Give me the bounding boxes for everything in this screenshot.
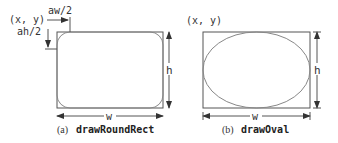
caption-prefix: (b) bbox=[222, 124, 234, 136]
width-label: w bbox=[106, 111, 113, 122]
caption-method: drawOval bbox=[241, 124, 289, 135]
width-label: w bbox=[252, 111, 259, 122]
rounded-rectangle bbox=[57, 32, 163, 108]
caption-prefix: (a) bbox=[57, 124, 68, 136]
origin-label: (x, y) bbox=[186, 15, 222, 26]
panel-draw-round-rect: (x, y) aw/2 ah/2 h w (a) drawRoundRect bbox=[9, 5, 173, 136]
arc-width-label: aw/2 bbox=[48, 5, 72, 16]
height-label: h bbox=[166, 64, 173, 77]
bounding-rect bbox=[57, 32, 163, 108]
height-label: h bbox=[314, 64, 321, 77]
oval bbox=[203, 32, 310, 108]
arc-height-label: ah/2 bbox=[17, 26, 41, 37]
origin-label: (x, y) bbox=[9, 14, 45, 25]
panel-draw-oval: (x, y) h w (b) drawOval bbox=[186, 15, 321, 136]
caption-method: drawRoundRect bbox=[76, 124, 154, 135]
diagram-canvas: (x, y) aw/2 ah/2 h w (a) drawRoundRect (… bbox=[0, 0, 338, 143]
